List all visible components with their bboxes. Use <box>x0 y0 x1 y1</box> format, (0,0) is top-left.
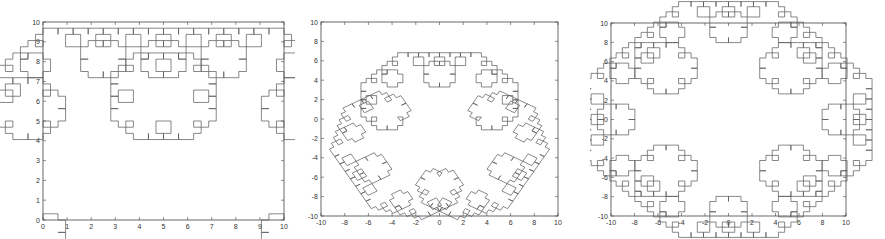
fractal-curve <box>590 2 872 238</box>
y-tick-label: 2 <box>604 97 608 104</box>
y-tick-label: -2 <box>602 135 608 142</box>
x-tick-label: 8 <box>821 219 825 226</box>
chart-canvas-3: -10-8-6-4-20246810-10-8-6-4-20246810 <box>590 0 885 239</box>
x-tick-label: 10 <box>280 223 288 230</box>
y-tick-label: -6 <box>602 174 608 181</box>
y-tick-label: 10 <box>32 19 40 26</box>
x-tick-label: -6 <box>655 219 661 226</box>
y-tick-label: 0 <box>604 116 608 123</box>
chart-canvas-1: 012345678910012345678910 <box>0 0 295 239</box>
x-tick-label: 6 <box>797 219 801 226</box>
y-tick-label: 2 <box>36 177 40 184</box>
y-tick-label: 8 <box>36 58 40 65</box>
x-tick-label: 0 <box>41 223 45 230</box>
x-tick-label: 7 <box>210 223 214 230</box>
x-tick-label: 8 <box>532 219 536 226</box>
y-tick-label: 6 <box>604 58 608 65</box>
y-tick-label: 3 <box>36 157 40 164</box>
fractal-curve <box>0 28 295 239</box>
y-tick-label: 4 <box>36 137 40 144</box>
y-tick-label: 10 <box>310 19 318 26</box>
x-tick-label: 2 <box>750 219 754 226</box>
x-tick-label: 3 <box>113 223 117 230</box>
plot-levy-curve: 012345678910012345678910 <box>0 0 295 239</box>
chart-canvas-2: -10-8-6-4-20246810-10-8-6-4-20246810 <box>295 0 590 239</box>
y-tick-label: -6 <box>312 174 318 181</box>
y-tick-label: -10 <box>598 213 608 220</box>
y-tick-label: -2 <box>312 135 318 142</box>
x-tick-label: -8 <box>342 219 348 226</box>
y-tick-label: 8 <box>314 38 318 45</box>
fractal-curve <box>329 53 549 220</box>
x-tick-label: 10 <box>842 219 850 226</box>
y-tick-label: 4 <box>314 77 318 84</box>
x-tick-label: 10 <box>554 219 562 226</box>
x-tick-label: 6 <box>186 223 190 230</box>
x-tick-label: -4 <box>389 219 395 226</box>
y-tick-label: 4 <box>604 77 608 84</box>
y-tick-label: 6 <box>314 57 318 64</box>
x-tick-label: -10 <box>316 219 326 226</box>
y-tick-label: 2 <box>314 96 318 103</box>
x-tick-label: 2 <box>89 223 93 230</box>
x-tick-label: -2 <box>413 219 419 226</box>
y-tick-label: -8 <box>312 193 318 200</box>
x-tick-label: 2 <box>461 219 465 226</box>
x-tick-label: -2 <box>702 219 708 226</box>
axes-box <box>321 22 558 216</box>
plot-diamond: -10-8-6-4-20246810-10-8-6-4-20246810 <box>590 0 885 239</box>
y-tick-label: 1 <box>36 197 40 204</box>
y-tick-label: 10 <box>600 20 608 27</box>
x-tick-label: -10 <box>606 219 616 226</box>
x-tick-label: 4 <box>774 219 778 226</box>
y-tick-label: 9 <box>36 38 40 45</box>
y-tick-label: 0 <box>36 217 40 224</box>
y-tick-label: -10 <box>308 213 318 220</box>
y-tick-label: 8 <box>604 39 608 46</box>
x-tick-label: -4 <box>678 219 684 226</box>
x-tick-label: -6 <box>365 219 371 226</box>
y-tick-label: -4 <box>312 154 318 161</box>
axes-box <box>611 23 846 216</box>
x-tick-label: 6 <box>509 219 513 226</box>
x-tick-label: 4 <box>485 219 489 226</box>
y-tick-label: 0 <box>314 116 318 123</box>
x-tick-label: 4 <box>137 223 141 230</box>
y-tick-label: 6 <box>36 98 40 105</box>
plot-snowflake: -10-8-6-4-20246810-10-8-6-4-20246810 <box>295 0 590 239</box>
y-tick-label: -8 <box>602 193 608 200</box>
y-tick-label: 5 <box>36 118 40 125</box>
x-tick-label: 5 <box>162 223 166 230</box>
y-tick-label: 7 <box>36 78 40 85</box>
x-tick-label: -8 <box>631 219 637 226</box>
x-tick-label: 0 <box>438 219 442 226</box>
x-tick-label: 8 <box>234 223 238 230</box>
